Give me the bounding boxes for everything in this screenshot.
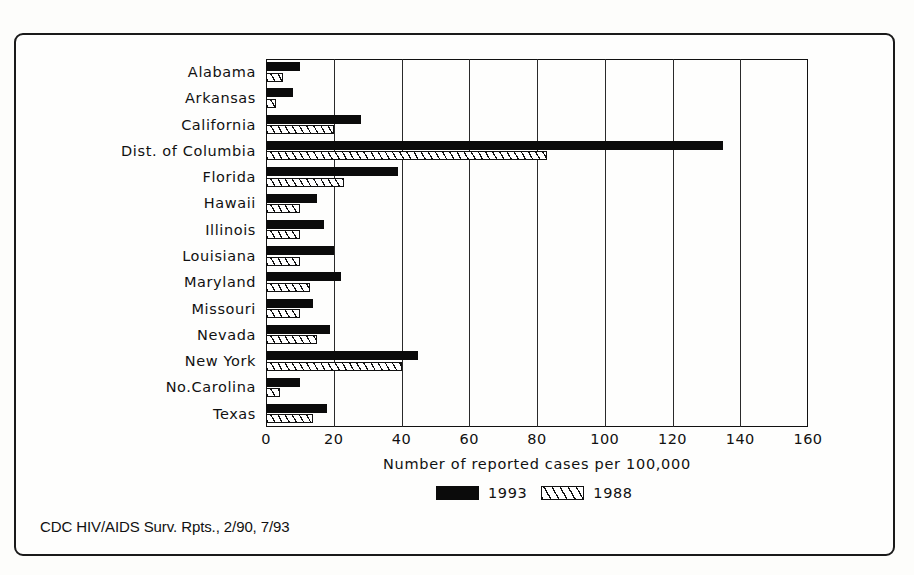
- category-label: New York: [185, 348, 256, 374]
- bar-1993: [266, 246, 334, 255]
- plot-area: AlabamaArkansasCaliforniaDist. of Columb…: [266, 59, 808, 427]
- bar-1993: [266, 272, 341, 281]
- bar-1993: [266, 115, 361, 124]
- category-label: Maryland: [184, 269, 256, 295]
- bar-row: Illinois: [266, 217, 808, 243]
- bar-1988: [266, 99, 276, 108]
- legend-item-1988: 1988: [541, 485, 632, 501]
- category-label: No.Carolina: [166, 374, 256, 400]
- x-tick-label: 160: [793, 431, 822, 447]
- legend-swatch-solid-icon: [436, 486, 479, 500]
- bar-rows: AlabamaArkansasCaliforniaDist. of Columb…: [266, 59, 808, 427]
- x-tick-label: 80: [527, 431, 546, 447]
- legend-swatch-hatch-icon: [541, 486, 584, 500]
- bar-1988: [266, 204, 300, 213]
- bar-row: Hawaii: [266, 190, 808, 216]
- bar-1993: [266, 299, 313, 308]
- category-label: Dist. of Columbia: [121, 138, 256, 164]
- bar-1988: [266, 414, 313, 423]
- bar-row: California: [266, 112, 808, 138]
- x-tick-label: 20: [324, 431, 343, 447]
- bar-1988: [266, 283, 310, 292]
- bar-1988: [266, 178, 344, 187]
- bar-1993: [266, 351, 418, 360]
- category-label: Texas: [213, 401, 256, 427]
- category-label: Alabama: [188, 59, 256, 85]
- category-label: Illinois: [205, 217, 256, 243]
- bar-row: No.Carolina: [266, 374, 808, 400]
- bar-row: Missouri: [266, 296, 808, 322]
- bar-1993: [266, 141, 723, 150]
- bar-1988: [266, 335, 317, 344]
- bar-row: Maryland: [266, 269, 808, 295]
- category-label: Hawaii: [204, 190, 256, 216]
- legend-label-1988: 1988: [593, 485, 632, 501]
- bar-1988: [266, 309, 300, 318]
- bar-1988: [266, 125, 334, 134]
- chart-legend: 1993 1988: [436, 485, 633, 501]
- x-tick-label: 120: [658, 431, 687, 447]
- bar-row: Florida: [266, 164, 808, 190]
- bar-1988: [266, 73, 283, 82]
- chart-figure: AlabamaArkansasCaliforniaDist. of Columb…: [14, 33, 895, 556]
- x-tick-label: 100: [590, 431, 619, 447]
- bar-1988: [266, 257, 300, 266]
- legend-label-1993: 1993: [488, 485, 527, 501]
- bar-1993: [266, 62, 300, 71]
- bar-1993: [266, 167, 398, 176]
- bar-row: New York: [266, 348, 808, 374]
- legend-item-1993: 1993: [436, 485, 527, 501]
- bar-1993: [266, 194, 317, 203]
- bar-1988: [266, 388, 280, 397]
- category-label: Louisiana: [182, 243, 256, 269]
- x-tick-label: 140: [726, 431, 755, 447]
- x-axis-title: Number of reported cases per 100,000: [266, 456, 808, 472]
- bar-1988: [266, 362, 402, 371]
- source-note: CDC HIV/AIDS Surv. Rpts., 2/90, 7/93: [40, 518, 290, 535]
- bar-row: Louisiana: [266, 243, 808, 269]
- bar-row: Texas: [266, 401, 808, 427]
- x-axis-ticks: 020406080100120140160: [266, 431, 808, 451]
- x-tick-label: 40: [392, 431, 411, 447]
- x-tick-label: 0: [261, 431, 271, 447]
- category-label: Arkansas: [185, 85, 256, 111]
- bar-row: Nevada: [266, 322, 808, 348]
- bar-1993: [266, 404, 327, 413]
- category-label: Florida: [202, 164, 256, 190]
- bar-row: Alabama: [266, 59, 808, 85]
- bar-1988: [266, 230, 300, 239]
- bar-1993: [266, 378, 300, 387]
- category-label: California: [181, 112, 256, 138]
- bar-1993: [266, 325, 330, 334]
- x-tick-label: 60: [460, 431, 479, 447]
- bar-row: Dist. of Columbia: [266, 138, 808, 164]
- bar-1993: [266, 88, 293, 97]
- category-label: Nevada: [197, 322, 256, 348]
- bar-1988: [266, 151, 547, 160]
- bar-1993: [266, 220, 324, 229]
- bar-row: Arkansas: [266, 85, 808, 111]
- category-label: Missouri: [192, 296, 257, 322]
